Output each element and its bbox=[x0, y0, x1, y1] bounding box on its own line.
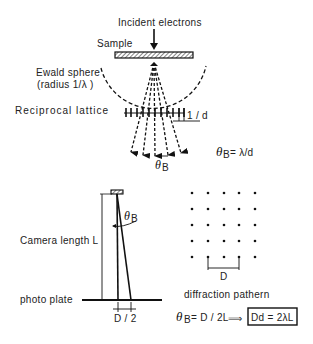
camera-theta-sub: B bbox=[131, 213, 138, 224]
sample-label: Sample bbox=[97, 38, 133, 49]
formula-theta: θ bbox=[176, 309, 183, 324]
bragg-theta-sub: B bbox=[223, 149, 230, 160]
ewald-sphere-label: Ewald sphere bbox=[36, 67, 100, 78]
sample-slab bbox=[115, 52, 193, 58]
bragg-theta: θ bbox=[216, 144, 223, 159]
bragg-relation: = λ/d bbox=[230, 147, 253, 158]
camera-geometry: θ B Camera length L photo plate D / 2 bbox=[20, 190, 162, 324]
reciprocal-spacing-label: 1 / d bbox=[187, 110, 208, 121]
diffraction-pattern-label: diffraction pathern bbox=[184, 289, 270, 300]
implies-arrow-icon: ⟹ bbox=[228, 313, 242, 324]
pattern-d-label: D bbox=[220, 271, 228, 282]
camera-theta-symbol: θ bbox=[124, 209, 130, 223]
formula-lhs: = D / 2L bbox=[191, 312, 229, 323]
incident-electrons-label: Incident electrons bbox=[118, 17, 202, 28]
reciprocal-lattice-label: Reciprocal lattice bbox=[15, 105, 109, 116]
formula-theta-sub: B bbox=[184, 314, 191, 325]
sample-small bbox=[111, 190, 123, 194]
photo-plate-label: photo plate bbox=[20, 294, 73, 305]
pattern-d-dimension bbox=[208, 257, 239, 270]
formula-result: Dd = 2λL bbox=[251, 312, 294, 323]
ewald-radius-label: (radius 1/λ ) bbox=[37, 79, 94, 90]
ewald-construction: Incident electrons Sample Ewald sphere (… bbox=[15, 17, 253, 173]
camera-length-label: Camera length L bbox=[20, 235, 99, 246]
half-d-dimension bbox=[113, 302, 136, 312]
camera-equation: θ B = D / 2L ⟹ Dd = 2λL bbox=[176, 308, 297, 325]
direct-beam bbox=[117, 194, 118, 300]
incident-arrow-icon bbox=[150, 29, 158, 50]
theta-b-subscript: B bbox=[162, 162, 169, 173]
electron-diffraction-diagram: Incident electrons Sample Ewald sphere (… bbox=[0, 0, 313, 344]
theta-b-symbol: θ bbox=[155, 158, 161, 172]
diffraction-pattern bbox=[191, 192, 257, 259]
ewald-sphere-arc bbox=[101, 66, 206, 108]
half-d-label: D / 2 bbox=[114, 313, 137, 324]
